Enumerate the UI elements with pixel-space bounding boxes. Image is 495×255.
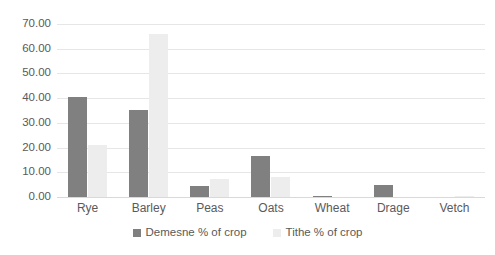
bar-chart: 0.0010.0020.0030.0040.0050.0060.0070.00 …: [0, 0, 495, 255]
bar-group: [363, 24, 424, 197]
legend-entry[interactable]: Demesne % of crop: [133, 226, 247, 239]
chart-legend: Demesne % of cropTithe % of crop: [0, 226, 495, 239]
x-axis-tick-label: Rye: [77, 200, 98, 216]
legend-label: Tithe % of crop: [286, 226, 363, 239]
bar-group: [424, 24, 485, 197]
y-axis-tick-label: 70.00: [0, 18, 51, 30]
bar[interactable]: [129, 110, 148, 197]
x-axis-tick-label: Peas: [196, 200, 223, 216]
bar[interactable]: [88, 145, 107, 197]
y-axis-tick-label: 30.00: [0, 117, 51, 129]
y-axis-tick-label: 0.00: [0, 191, 51, 203]
bar[interactable]: [68, 97, 87, 197]
bar[interactable]: [210, 179, 229, 197]
bar-group: [57, 24, 118, 197]
y-axis-tick-label: 20.00: [0, 142, 51, 154]
y-axis-tick-label: 10.00: [0, 167, 51, 179]
y-axis: 0.0010.0020.0030.0040.0050.0060.0070.00: [0, 24, 51, 197]
bar[interactable]: [313, 196, 332, 197]
gridline: [57, 197, 485, 198]
legend-label: Demesne % of crop: [146, 226, 247, 239]
bar-group: [302, 24, 363, 197]
legend-swatch-icon: [273, 229, 281, 237]
y-axis-tick-label: 40.00: [0, 92, 51, 104]
bar[interactable]: [190, 186, 209, 197]
bar[interactable]: [251, 156, 270, 197]
y-axis-tick-label: 60.00: [0, 43, 51, 55]
bar-group: [179, 24, 240, 197]
x-axis: RyeBarleyPeasOatsWheatDrageVetch: [57, 200, 485, 220]
x-axis-tick-label: Wheat: [315, 200, 350, 216]
plot-area: [57, 24, 485, 197]
x-axis-tick-label: Oats: [258, 200, 283, 216]
bar[interactable]: [455, 196, 474, 197]
bar[interactable]: [149, 34, 168, 197]
legend-entry[interactable]: Tithe % of crop: [273, 226, 363, 239]
x-axis-tick-label: Barley: [132, 200, 166, 216]
bar[interactable]: [271, 177, 290, 197]
x-axis-tick-label: Vetch: [439, 200, 469, 216]
y-axis-tick-label: 50.00: [0, 68, 51, 80]
bar-group: [118, 24, 179, 197]
x-axis-tick-label: Drage: [377, 200, 410, 216]
bar[interactable]: [374, 185, 393, 197]
legend-swatch-icon: [133, 229, 141, 237]
bar-group: [240, 24, 301, 197]
